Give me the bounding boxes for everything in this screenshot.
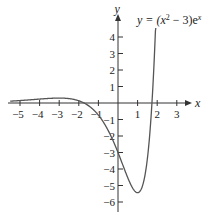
title-lhs: y = (x <box>136 13 166 27</box>
x-tick-label: −3 <box>51 108 63 120</box>
y-ticks: 4321−1−2−3−4−5−6 <box>103 31 123 208</box>
y-tick-label: −4 <box>103 163 115 175</box>
y-axis: y 4321−1−2−3−4−5−6 <box>103 2 123 212</box>
x-tick-label: −4 <box>32 108 44 120</box>
x-tick-label: 1 <box>135 108 141 120</box>
chart-title: y = (x2 − 3)ex <box>136 13 202 27</box>
x-tick-label: 3 <box>174 108 180 120</box>
x-tick-label: −5 <box>12 108 24 120</box>
x-tick-label: 2 <box>154 108 160 120</box>
y-tick-label: −3 <box>103 147 115 159</box>
title-mid: − 3)e <box>170 13 198 27</box>
x-axis-label: x <box>194 96 201 110</box>
x-tick-label: −2 <box>71 108 83 120</box>
title-exp2: x <box>197 13 202 22</box>
y-tick-label: 3 <box>110 48 116 60</box>
x-axis-arrow-icon <box>185 100 192 106</box>
y-tick-label: 2 <box>110 64 116 76</box>
y-axis-label: y <box>114 2 121 16</box>
function-plot: x −5−4−3−2−1123 y 4321−1−2−3−4−5−6 y = (… <box>0 0 210 219</box>
y-tick-label: 4 <box>110 31 116 43</box>
y-tick-label: 1 <box>110 81 116 93</box>
y-tick-label: −6 <box>103 196 115 208</box>
y-tick-label: −5 <box>103 180 115 192</box>
